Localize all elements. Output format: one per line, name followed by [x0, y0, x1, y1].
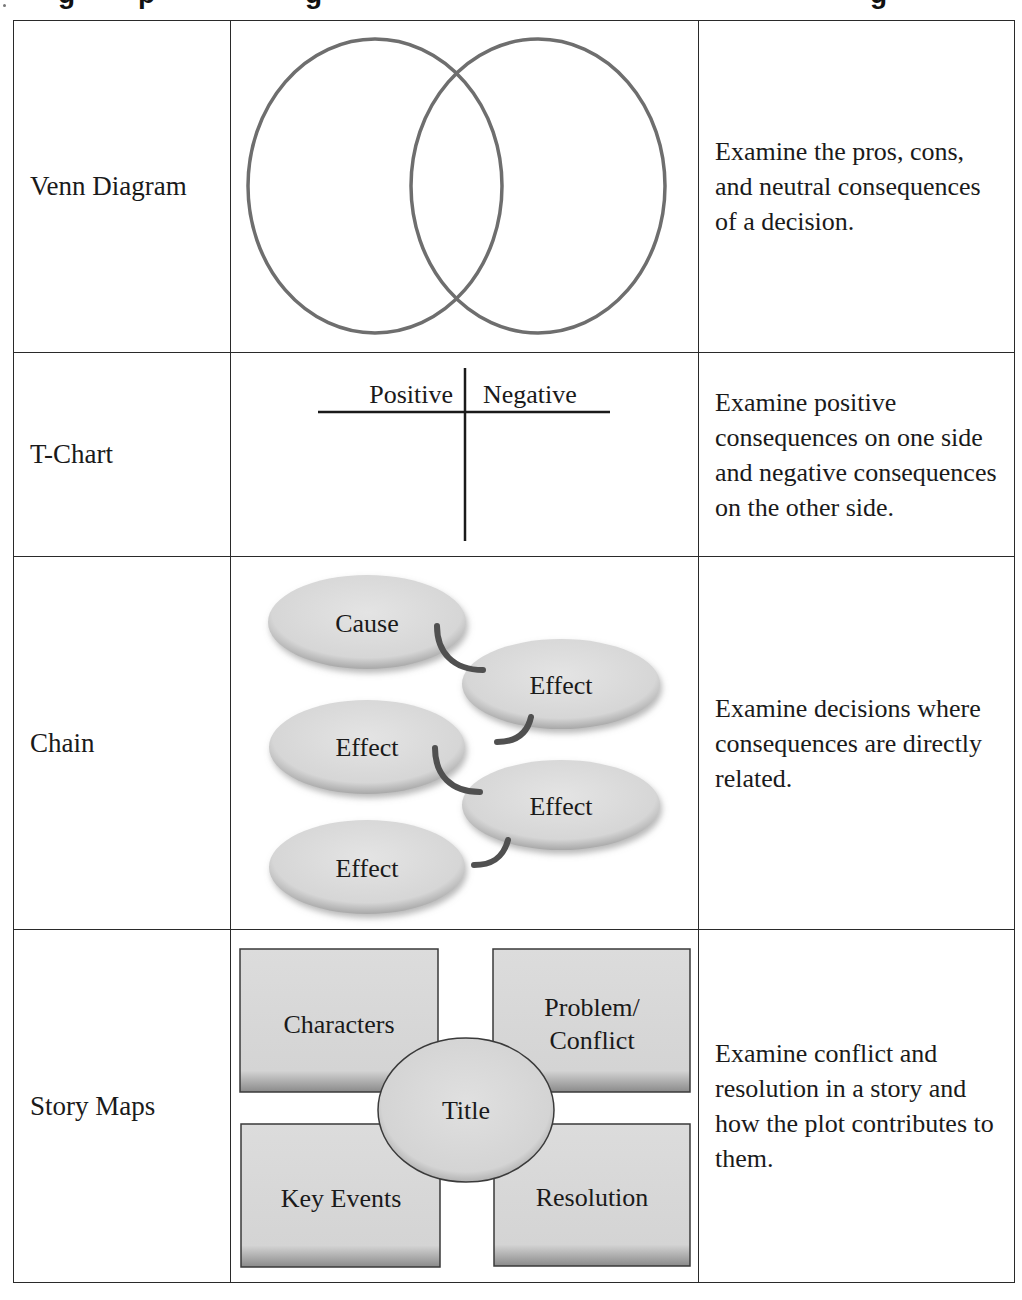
t-chart-left-header: Positive — [369, 380, 453, 409]
table-row-venn: Venn Diagram Examine the pros, cons, and… — [14, 21, 1015, 353]
row-description: Examine conflict and resolution in a sto… — [699, 1036, 1014, 1176]
row-description-cell: Examine decisions where consequences are… — [699, 557, 1015, 930]
row-name-cell: Venn Diagram — [14, 21, 231, 353]
t-chart: Positive Negative — [231, 353, 698, 556]
table-row-chain: Chain — [14, 557, 1015, 930]
story-map: Characters Problem/ Conflict Key Events … — [231, 930, 698, 1282]
title-glyph: g — [870, 0, 887, 10]
chain-diagram: Cause Effect Effect Effect Effect — [231, 557, 698, 929]
row-description: Examine positive consequences on one sid… — [699, 385, 1014, 525]
row-name: Chain — [14, 727, 230, 759]
row-description: Examine the pros, cons, and neutral cons… — [699, 134, 1014, 239]
chain-diagram-cell: Cause Effect Effect Effect Effect — [231, 557, 699, 930]
table-row-t-chart: T-Chart Positive Negative Examine positi… — [14, 353, 1015, 557]
story-box-label: Conflict — [549, 1026, 635, 1055]
venn-right-circle — [411, 39, 665, 333]
row-name: T-Chart — [14, 438, 230, 470]
chain-node-label: Effect — [529, 671, 593, 700]
clipped-page-title: g p g g — [0, 0, 1022, 10]
row-description: Examine decisions where consequences are… — [699, 691, 1014, 796]
row-name: Story Maps — [14, 1090, 230, 1122]
graphic-organizer-table: Venn Diagram Examine the pros, cons, and… — [13, 20, 1015, 1283]
row-description-cell: Examine positive consequences on one sid… — [699, 353, 1015, 557]
row-name: Venn Diagram — [14, 170, 230, 202]
chain-node-label: Effect — [335, 733, 399, 762]
chain-node-label: Effect — [529, 792, 593, 821]
t-chart-cell: Positive Negative — [231, 353, 699, 557]
venn-left-circle — [248, 39, 502, 333]
story-title-label: Title — [442, 1096, 490, 1125]
story-box-label: Key Events — [281, 1184, 402, 1213]
row-name-cell: Chain — [14, 557, 231, 930]
story-box-label: Resolution — [536, 1183, 649, 1212]
row-name-cell: Story Maps — [14, 930, 231, 1283]
title-glyph: g — [305, 0, 322, 10]
venn-diagram-cell — [231, 21, 699, 353]
venn-diagram — [231, 21, 698, 352]
chain-node-label: Effect — [335, 854, 399, 883]
row-description-cell: Examine conflict and resolution in a sto… — [699, 930, 1015, 1283]
row-name-cell: T-Chart — [14, 353, 231, 557]
chain-connector — [474, 840, 508, 865]
story-box-label: Characters — [283, 1010, 394, 1039]
title-glyph: g — [58, 0, 75, 10]
t-chart-right-header: Negative — [483, 380, 577, 409]
chain-node-label: Cause — [335, 609, 399, 638]
story-map-cell: Characters Problem/ Conflict Key Events … — [231, 930, 699, 1283]
title-glyph: p — [138, 0, 155, 10]
story-box-label: Problem/ — [544, 993, 640, 1022]
table-row-story-maps: Story Maps — [14, 930, 1015, 1283]
row-description-cell: Examine the pros, cons, and neutral cons… — [699, 21, 1015, 353]
